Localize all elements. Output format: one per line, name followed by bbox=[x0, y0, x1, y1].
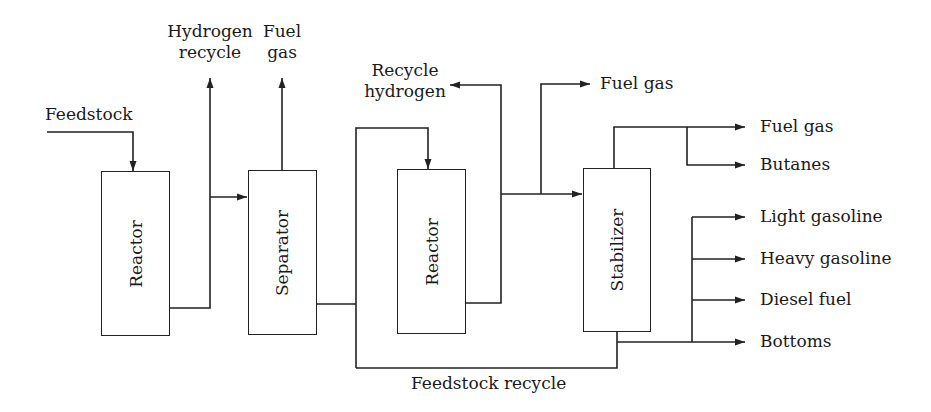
feedstock-recycle-label: Feedstock recycle bbox=[411, 373, 566, 394]
recycle-hydrogen-label: Recycle hydrogen bbox=[360, 60, 450, 102]
recycle-hydrogen-label-line1: Recycle bbox=[360, 60, 450, 81]
reactor-1-unit: Reactor bbox=[101, 171, 170, 336]
separator-fuel-gas-label: Fuel gas bbox=[260, 21, 304, 63]
reactor-2-label: Reactor bbox=[422, 218, 442, 286]
hydrogen-recycle-label: Hydrogen recycle bbox=[164, 21, 256, 63]
feedstock-line bbox=[47, 132, 133, 171]
feedstock-label: Feedstock bbox=[45, 104, 132, 125]
reactor-2-unit: Reactor bbox=[397, 169, 466, 334]
hydrogen-recycle-label-line2: recycle bbox=[164, 42, 256, 63]
product-butanes-label: Butanes bbox=[760, 154, 830, 175]
butanes-line bbox=[687, 127, 745, 165]
stabilizer-unit: Stabilizer bbox=[583, 168, 651, 332]
product-bottoms-label: Bottoms bbox=[760, 331, 831, 352]
product-light-gasoline-label: Light gasoline bbox=[760, 206, 883, 227]
product-diesel-fuel-label: Diesel fuel bbox=[760, 289, 852, 310]
stabilizer-label: Stabilizer bbox=[607, 209, 627, 292]
separator-fuel-gas-label-line2: gas bbox=[260, 42, 304, 63]
recycle-hydrogen-label-line2: hydrogen bbox=[360, 81, 450, 102]
reactor-1-label: Reactor bbox=[126, 220, 146, 288]
separator-fuel-gas-label-line1: Fuel bbox=[260, 21, 304, 42]
stabilizer-overhead-line bbox=[614, 127, 745, 169]
reactor2-fuel-gas-label: Fuel gas bbox=[600, 73, 673, 94]
stabilizer-bottom-line bbox=[356, 331, 617, 368]
product-fuel-gas-label: Fuel gas bbox=[760, 116, 833, 137]
hydrogen-recycle-label-line1: Hydrogen bbox=[164, 21, 256, 42]
reactor1-outlet-line bbox=[169, 78, 210, 308]
separator-unit: Separator bbox=[248, 170, 317, 335]
separator-label: Separator bbox=[273, 209, 293, 295]
product-heavy-gasoline-label: Heavy gasoline bbox=[760, 248, 892, 269]
